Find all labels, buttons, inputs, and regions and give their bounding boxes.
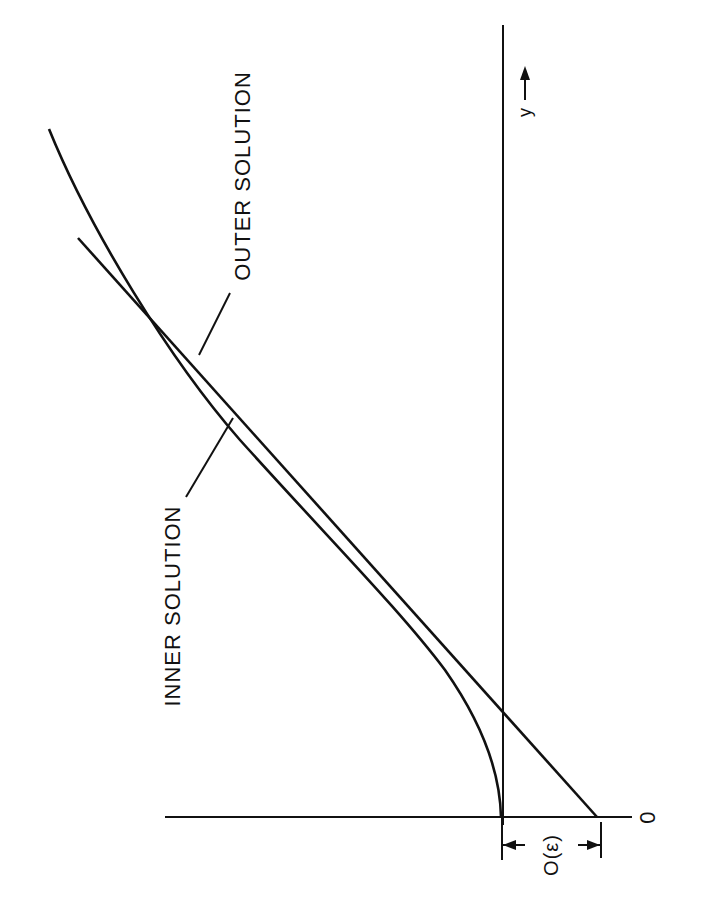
matched-asymptotics-diagram: y 0 OUTER SOLUTION INNER SOLUTION O(ε) <box>0 0 710 901</box>
y-direction-arrow-icon <box>520 66 530 100</box>
outer-solution-leader <box>199 293 230 355</box>
inner-solution-curve <box>49 129 501 817</box>
outer-solution-label: OUTER SOLUTION <box>230 71 255 281</box>
origin-label: 0 <box>635 810 660 823</box>
inner-solution-leader <box>186 418 233 497</box>
axis-variable-label: y <box>515 107 535 117</box>
inner-solution-label: INNER SOLUTION <box>160 505 185 706</box>
outer-solution-line <box>78 238 597 817</box>
offset-label: O(ε) <box>540 834 562 876</box>
